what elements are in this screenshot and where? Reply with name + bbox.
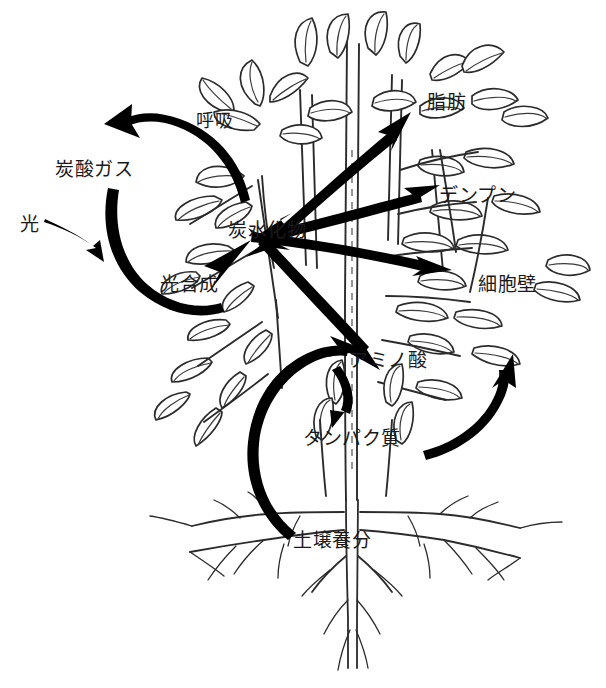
label-starch: デンプン <box>439 186 516 205</box>
label-amino-acid: アミノ酸 <box>349 351 427 370</box>
label-protein: タンパク質 <box>303 429 401 448</box>
label-carbohydrate: 炭水化物 <box>228 221 306 240</box>
flow-arrow-protein-cellwall <box>423 354 516 460</box>
label-carbon-dioxide: 炭酸ガス <box>55 160 133 179</box>
diagram-canvas: .leaf { fill: #ffffff; stroke: #2b2b2b; … <box>0 0 606 688</box>
label-photosynthesis: 光合成 <box>160 275 219 294</box>
label-respiration: 呼吸 <box>196 112 233 130</box>
label-soil-nutrient: 土壌養分 <box>293 531 371 550</box>
plant-foliage-upper <box>199 12 548 144</box>
label-fat: 脂肪 <box>427 93 466 112</box>
label-cell-wall: 細胞壁 <box>478 275 537 294</box>
label-light: 光 <box>20 215 40 234</box>
plant-metabolism-diagram: .leaf { fill: #ffffff; stroke: #2b2b2b; … <box>0 0 606 688</box>
plant-roots <box>150 492 562 670</box>
